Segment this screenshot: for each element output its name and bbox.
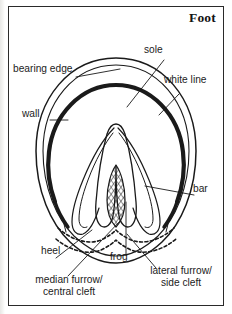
leader-bearing-edge xyxy=(76,69,120,77)
label-lateral-furrow: lateral furrow/ side cleft xyxy=(133,265,229,288)
bar-right xyxy=(164,202,177,227)
label-heel: heel xyxy=(41,245,60,257)
label-median-furrow-line1: median furrow/ xyxy=(35,274,102,285)
bar-left xyxy=(55,202,68,227)
lateral-groove-right-outer xyxy=(118,128,160,234)
hoof-wall-outline xyxy=(36,58,196,263)
label-median-furrow: median furrow/ central cleft xyxy=(17,274,121,297)
label-frog: frog xyxy=(110,251,128,263)
label-sole: sole xyxy=(144,44,163,56)
label-bearing-edge: bearing edge xyxy=(13,63,72,75)
label-white-line: white line xyxy=(164,74,206,86)
label-lateral-furrow-line2: side cleft xyxy=(161,277,201,288)
label-bar: bar xyxy=(193,183,208,195)
leader-median-furrow xyxy=(68,221,120,276)
label-wall: wall xyxy=(22,108,40,120)
label-lateral-furrow-line1: lateral furrow/ xyxy=(150,265,212,276)
leader-bar xyxy=(145,186,194,195)
label-median-furrow-line2: central cleft xyxy=(43,286,95,297)
figure-foot-diagram: Foot xyxy=(0,0,232,314)
lateral-groove-left-outer xyxy=(72,128,114,234)
scan-edge-artifact xyxy=(0,0,5,314)
